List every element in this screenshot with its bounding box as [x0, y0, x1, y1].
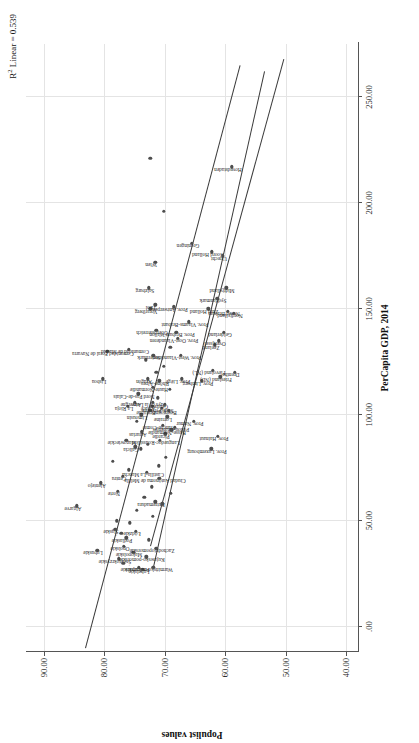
data-point-label: Norte [108, 491, 120, 497]
data-point[interactable] [169, 491, 172, 494]
data-point[interactable] [143, 496, 146, 499]
r-squared-exponent: 2 [6, 70, 13, 73]
x-tick-label: .00 [364, 621, 374, 632]
data-point-label: Utrecht [211, 256, 227, 262]
data-point-label: Lisboa [91, 379, 105, 385]
data-point-label: Midtjylland [210, 288, 235, 294]
data-point[interactable] [111, 460, 114, 463]
data-point-label: Prov. Namur [176, 421, 203, 427]
y-tick [346, 652, 347, 656]
x-gridline [26, 202, 358, 203]
data-point-label: Prov. Vlaams-Brabant [162, 322, 209, 328]
data-point-label: Overijssel [204, 341, 225, 347]
data-point-label: Gelderland [208, 332, 231, 338]
y-axis-title: Populist values [26, 728, 358, 742]
data-point[interactable] [135, 508, 138, 511]
data-point-label: Prov. West-Vlaanderen [152, 355, 201, 361]
data-point-label: Nordjylland [217, 313, 243, 319]
data-point[interactable] [168, 388, 171, 391]
y-axis-title-text: Populist values [162, 730, 223, 740]
y-gridline [225, 44, 226, 652]
data-point-label: Nord Pas-de-Calais [114, 394, 155, 400]
x-gridline [26, 414, 358, 415]
data-point-label: Kujawsko-pomorskie [119, 557, 165, 563]
data-point-label: Ciudad Autónoma de Melilla [125, 478, 186, 484]
data-point-label: Groningen [177, 243, 200, 249]
data-point-label: Hovedstaden [214, 167, 242, 173]
data-point-label: Algarve [64, 506, 81, 512]
plot-area: AlgarveLubuskieAlentejoLisboaComunidad F… [26, 44, 358, 652]
x-axis-line [358, 42, 359, 652]
x-gridline [26, 626, 358, 627]
data-point[interactable] [157, 464, 160, 467]
data-point-label: Syddanmark [200, 298, 227, 304]
x-tick [358, 414, 362, 415]
r-squared-suffix: Linear = 0.539 [8, 14, 18, 70]
x-tick [358, 520, 362, 521]
x-tick [358, 626, 362, 627]
y-tick-label: 90.00 [39, 658, 49, 702]
data-point[interactable] [151, 515, 154, 518]
data-point-label: Salzburg [135, 288, 154, 294]
data-point[interactable] [149, 157, 152, 160]
x-tick [358, 202, 362, 203]
data-point-label: Podlaskie [112, 538, 133, 544]
y-tick [104, 652, 105, 656]
y-tick [286, 652, 287, 656]
x-tick-label: 50.00 [364, 511, 374, 530]
data-point-label: Galicia [124, 447, 139, 453]
data-point-label: Languedoc-Roussillon [132, 440, 180, 446]
data-point[interactable] [139, 447, 142, 450]
data-point-label: Asturias [129, 432, 147, 438]
data-point-label: Drenthe [222, 372, 239, 378]
data-point[interactable] [156, 396, 159, 399]
y-gridline [44, 44, 45, 652]
y-axis-line [26, 651, 359, 652]
data-point[interactable] [164, 455, 167, 458]
x-gridline [26, 96, 358, 97]
data-point-label: Lubuskie [83, 550, 103, 556]
x-tick-label: 250.00 [364, 85, 374, 108]
data-point-label: Wien [146, 262, 157, 268]
data-point[interactable] [135, 419, 138, 422]
x-tick-label: 150.00 [364, 297, 374, 320]
x-axis-title: PerCapita GDP, 2014 [380, 44, 390, 652]
data-point-label: Lorraine [154, 417, 172, 423]
data-point[interactable] [128, 521, 131, 524]
y-tick [225, 652, 226, 656]
y-gridline [346, 44, 347, 652]
data-point-label: Prov. Oost-Vlaanderen [149, 338, 197, 344]
y-tick-label: 70.00 [160, 658, 170, 702]
y-tick [165, 652, 166, 656]
data-point[interactable] [169, 345, 172, 348]
data-point-label: Poitou-Charentes [153, 427, 190, 433]
x-tick-label: 100.00 [364, 403, 374, 426]
r-squared-annotation: R2 Linear = 0.539 [6, 14, 18, 79]
r-squared-prefix: R [8, 73, 18, 79]
data-point-label: Haute-Normandie [130, 387, 168, 393]
x-tick [358, 308, 362, 309]
y-tick-label: 80.00 [99, 658, 109, 702]
x-gridline [26, 520, 358, 521]
y-tick-label: 40.00 [341, 658, 351, 702]
data-point-label: Warmińsko-mazurskie [126, 567, 174, 573]
y-tick-label: 50.00 [281, 658, 291, 702]
x-tick-label: 200.00 [364, 191, 374, 214]
data-point[interactable] [150, 485, 153, 488]
y-gridline [286, 44, 287, 652]
data-point-label: Łódzkie [123, 531, 140, 537]
data-point[interactable] [127, 468, 130, 471]
data-point[interactable] [147, 538, 150, 541]
x-tick [358, 96, 362, 97]
data-point-label: Prov. Hainaut [199, 436, 228, 442]
y-tick-label: 60.00 [220, 658, 230, 702]
data-point-label: Śląskie [104, 529, 119, 535]
data-point-label: Prov. Luxembourg [188, 449, 227, 455]
data-point-label: Zachodniopomorskie [130, 548, 175, 554]
y-tick [44, 652, 45, 656]
data-point-label: Prov. Antwerpen [152, 307, 187, 313]
data-point-label: Alentejo [88, 483, 106, 489]
